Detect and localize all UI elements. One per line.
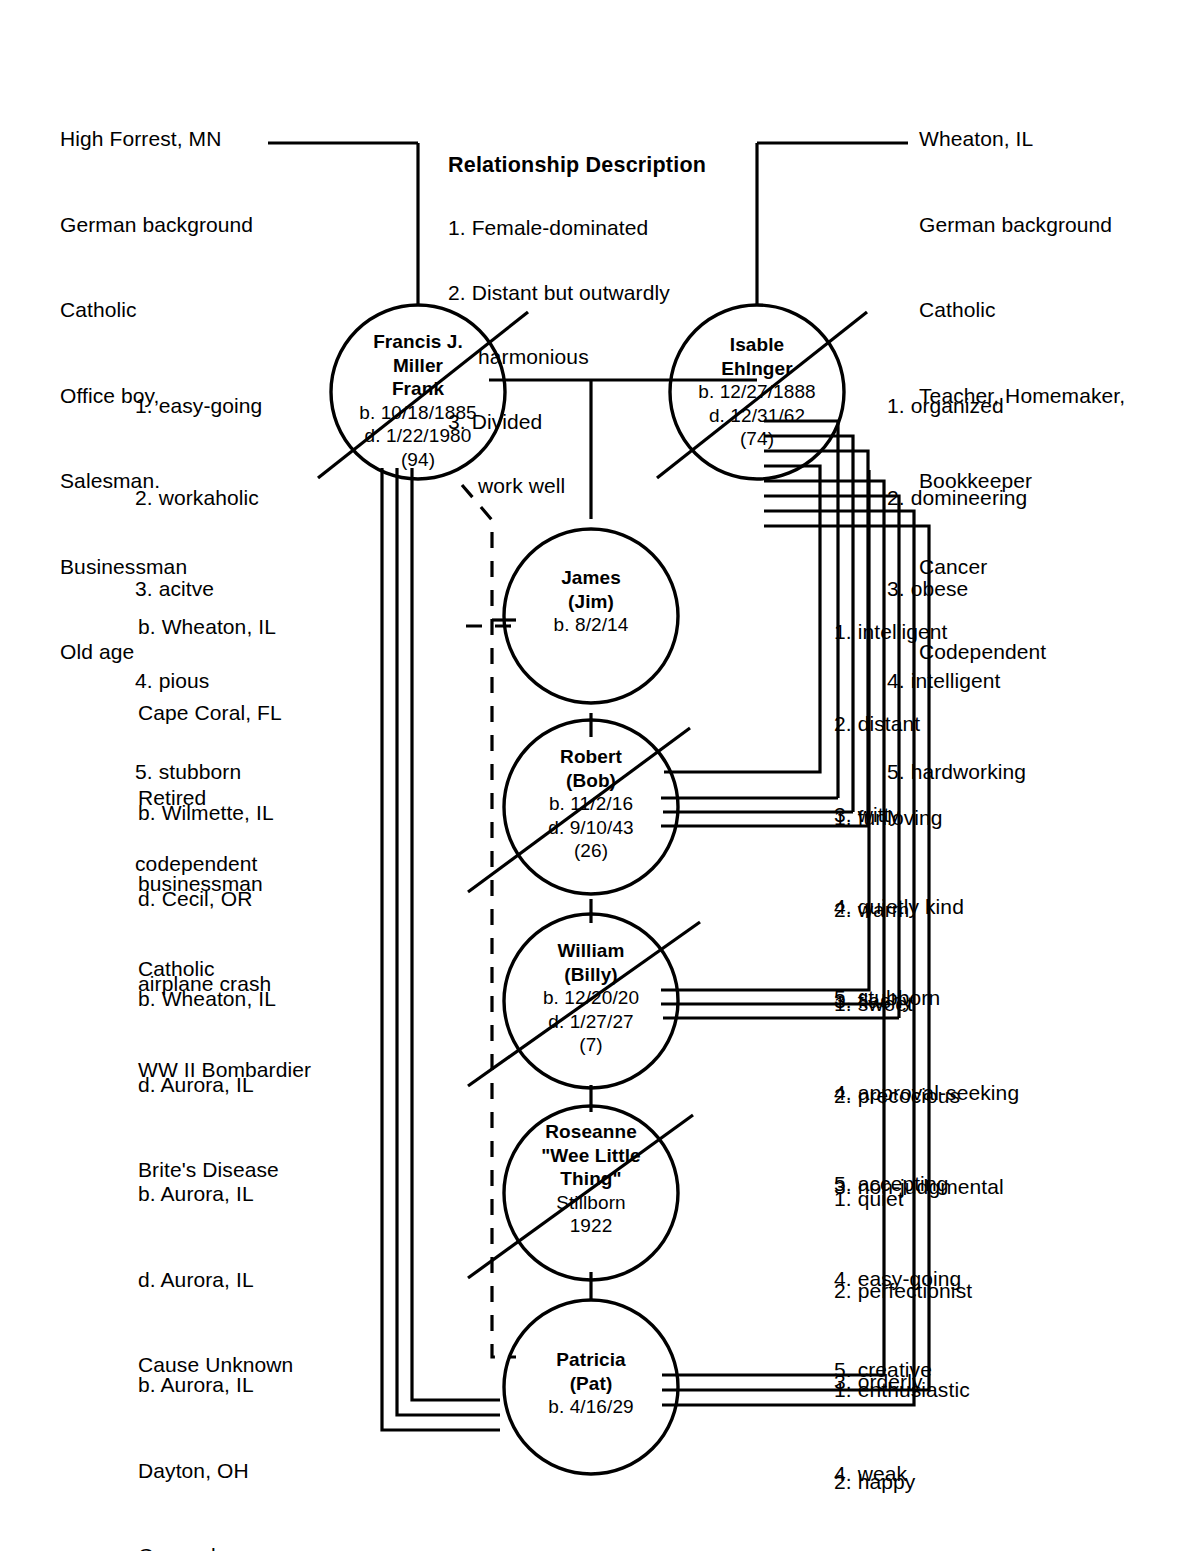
relationship-description-item: 2. Distant but outwardly xyxy=(448,279,706,308)
deceased-slash-roseanne xyxy=(468,1115,693,1278)
trait-item: 2. precocious xyxy=(834,1081,1004,1112)
background-line: d. Cecil, OR xyxy=(138,885,311,914)
relationship-description-item: work well xyxy=(448,472,706,501)
trait-item: 1. sweet xyxy=(834,989,1004,1020)
person-circle-james xyxy=(504,529,678,703)
trait-item: 2. workaholic xyxy=(135,483,262,514)
trait-item: 1. organized xyxy=(887,391,1027,422)
father-background-line: Catholic xyxy=(60,296,253,325)
background-line: Dayton, OH xyxy=(138,1457,352,1486)
background-line: d. Aurora, IL xyxy=(138,1266,293,1295)
background-line: b. Wilmette, IL xyxy=(138,799,311,828)
relationship-description-title: Relationship Description xyxy=(448,153,706,178)
trait-item: 2. distant xyxy=(834,709,964,740)
background-line: b. Wheaton, IL xyxy=(138,613,282,642)
deceased-slash-robert xyxy=(468,728,690,892)
background-line: b. Aurora, IL xyxy=(138,1371,352,1400)
background-line: b. Wheaton, IL xyxy=(138,985,279,1014)
trait-item: 2. perfectionist xyxy=(834,1276,972,1307)
traits-patricia: 1. enthusiastic 2. happy 3. bossy 4. ope… xyxy=(834,1314,970,1551)
trait-item: 2. happy xyxy=(834,1467,970,1498)
mother-background-line: Catholic xyxy=(919,296,1125,325)
trait-item: 1. enthusiastic xyxy=(834,1375,970,1406)
trait-item: 1. quiet xyxy=(834,1184,972,1215)
background-line: Cape Coral, FL xyxy=(138,699,282,728)
father-background-line: German background xyxy=(60,211,253,240)
person-circle-patricia xyxy=(504,1300,678,1474)
relationship-description-block: Relationship Description 1. Female-domin… xyxy=(448,117,706,537)
genogram-canvas: High Forrest, MN German background Catho… xyxy=(0,0,1184,1551)
person-circle-roseanne xyxy=(504,1106,678,1280)
person-circle-robert xyxy=(504,720,678,894)
trait-item: 1. easy-going xyxy=(135,391,262,422)
background-patricia: b. Aurora, IL Dayton, OH Counselor No or… xyxy=(138,1314,352,1551)
background-line: b. Aurora, IL xyxy=(138,1180,293,1209)
trait-item: 2. warm xyxy=(834,895,1019,926)
father-rail-1 xyxy=(382,468,500,1430)
dashed-relation-line xyxy=(462,485,516,1357)
father-background-line: High Forrest, MN xyxy=(60,125,253,154)
relationship-description-item: harmonious xyxy=(448,343,706,372)
relationship-description-item: 1. Female-dominated xyxy=(448,214,706,243)
trait-item: 1. funloving xyxy=(834,803,1019,834)
relationship-description-item: 3. Divided xyxy=(448,408,706,437)
background-line: Counselor xyxy=(138,1542,352,1551)
mother-background-line: German background xyxy=(919,211,1125,240)
background-line: d. Aurora, IL xyxy=(138,1071,279,1100)
mother-background-line: Wheaton, IL xyxy=(919,125,1125,154)
father-rail-3 xyxy=(412,468,500,1400)
trait-item: 1. intelligent xyxy=(834,617,964,648)
trait-item: 2. domineering xyxy=(887,483,1027,514)
